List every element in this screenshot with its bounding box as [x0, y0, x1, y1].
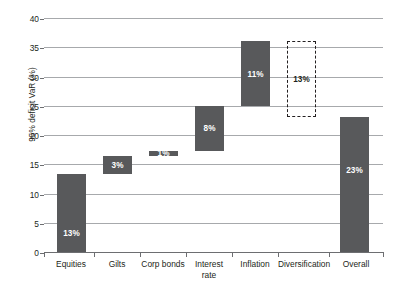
y-tick-label-0: 0	[34, 248, 39, 258]
x-axis-label-interest-rate-line1: Interest	[195, 259, 223, 269]
gridline-30: 30	[44, 77, 383, 78]
bar-label-equities: 13%	[63, 229, 79, 238]
bar-label-interest-rate: 8%	[204, 124, 216, 133]
bar-corp-bonds: 1%	[149, 151, 178, 156]
x-tick-5	[278, 252, 279, 257]
x-tick-4	[232, 252, 233, 257]
gridline-15: 15	[44, 164, 383, 165]
waterfall-chart: 95% deficit VaR (%) 40 35 30 25 20 15	[0, 0, 393, 283]
bar-equities: 13%	[57, 174, 86, 252]
gridline-35: 35	[44, 47, 383, 48]
x-axis-label-gilts: Gilts	[109, 259, 126, 270]
bar-label-overall: 23%	[346, 165, 362, 174]
y-tick-label-15: 15	[30, 160, 39, 170]
x-tick-6	[329, 252, 330, 257]
x-tick-2	[140, 252, 141, 257]
plot-area: 40 35 30 25 20 15 10 5	[44, 18, 383, 252]
bar-label-corp-bonds: 1%	[158, 149, 170, 158]
y-tick-label-35: 35	[30, 43, 39, 53]
bar-gilts: 3%	[103, 156, 132, 174]
x-axis-label-interest-rate-line2: rate	[202, 270, 216, 280]
x-axis-label-interest-rate: Interest rate	[195, 259, 223, 280]
gridline-40: 40	[44, 18, 383, 19]
bar-overall: 23%	[340, 117, 369, 252]
x-tick-0	[44, 252, 45, 257]
gridline-5: 5	[44, 223, 383, 224]
x-tick-3	[186, 252, 187, 257]
x-tick-1	[94, 252, 95, 257]
y-tick-label-40: 40	[30, 14, 39, 24]
y-tick-label-20: 20	[30, 131, 39, 141]
x-tick-7	[383, 252, 384, 257]
y-tick-label-5: 5	[34, 219, 39, 229]
x-axis-label-diversification: Diversification	[278, 259, 330, 270]
y-tick-label-25: 25	[30, 102, 39, 112]
y-tick-label-10: 10	[30, 190, 39, 200]
bar-inflation: 11%	[241, 41, 270, 105]
y-tick-label-30: 30	[30, 73, 39, 83]
bar-label-inflation: 11%	[248, 69, 264, 78]
x-axis-label-inflation: Inflation	[240, 259, 269, 270]
x-axis-label-overall: Overall	[343, 259, 370, 270]
bar-label-gilts: 3%	[112, 160, 124, 169]
x-axis-label-equities: Equities	[56, 259, 86, 270]
bar-label-diversification: 13%	[293, 75, 309, 84]
gridline-10: 10	[44, 194, 383, 195]
bar-interest-rate: 8%	[195, 106, 224, 151]
x-axis-label-corp-bonds: Corp bonds	[141, 259, 184, 270]
bar-diversification: 13%	[287, 41, 316, 117]
